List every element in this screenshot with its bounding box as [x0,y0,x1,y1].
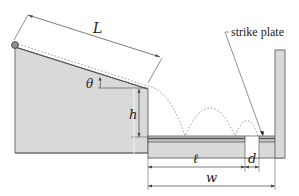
label-theta: θ [86,77,94,91]
right-wall [275,50,285,158]
rail-left [148,136,245,142]
rail-right [259,136,275,142]
ramp-diagram: L θ h ℓ d w [0,0,299,196]
label-ell: ℓ [193,151,199,166]
label-h: h [129,107,137,122]
label-w: w [206,170,217,185]
label-strike-plate: strike plate [231,25,284,39]
floor-block [148,141,284,158]
label-L: L [92,20,102,36]
ramp-block [15,47,148,153]
ball [12,42,19,49]
label-d: d [248,151,256,166]
strike-plate-leader [225,32,264,136]
